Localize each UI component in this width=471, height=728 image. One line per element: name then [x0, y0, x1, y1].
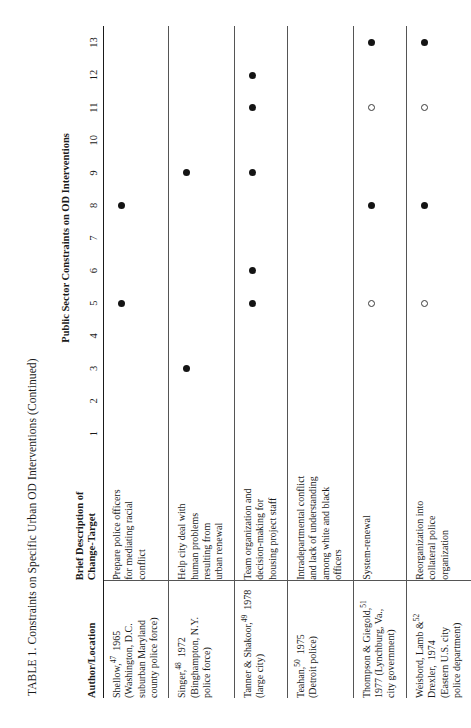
cell-constraint-4	[104, 320, 169, 353]
cell-change-target-description: Team organization anddecision-making for…	[234, 450, 287, 580]
cell-constraint-11	[104, 91, 169, 124]
cell-constraint-11	[288, 91, 354, 124]
location-line: police department)	[451, 623, 462, 698]
filled-circle-marker-icon	[421, 202, 428, 209]
cell-constraint-13	[406, 26, 471, 59]
constraints-table: Public Sector Constraints on OD Interven…	[60, 26, 471, 698]
location-line: (Binghampton, N.Y.	[189, 617, 200, 698]
description-line: collateral police	[426, 516, 437, 580]
open-circle-marker-icon	[368, 300, 375, 307]
table-row: Tanner & Shakoor,491978 (large city)Team…	[234, 26, 287, 698]
group-header-spacer-desc	[60, 450, 74, 580]
table-body: Shellow,471965(Washington, D.C.suburban …	[104, 26, 471, 698]
cell-constraint-3	[353, 352, 406, 385]
cell-constraint-12	[406, 59, 471, 92]
column-header-9: 9	[74, 157, 103, 190]
cell-constraint-4	[169, 320, 235, 353]
cell-constraint-5	[353, 287, 406, 320]
cell-constraint-7	[104, 222, 169, 255]
cell-constraint-5	[234, 287, 287, 320]
description-line: Intradepartmental conflict	[295, 476, 306, 580]
cell-constraint-1	[234, 417, 287, 450]
column-header-1: 1	[74, 417, 103, 450]
cell-constraint-13	[169, 26, 235, 59]
cell-constraint-11	[234, 91, 287, 124]
location-line: county police force)	[148, 617, 159, 698]
group-header-public-sector-constraints: Public Sector Constraints on OD Interven…	[60, 26, 74, 450]
author-name: Shellow,	[111, 663, 122, 698]
description-line: decision-making for	[254, 499, 265, 580]
cell-constraint-10	[104, 124, 169, 157]
cell-author-location: Teahan,501975(Detroit police)	[288, 580, 354, 698]
cell-constraint-1	[169, 417, 235, 450]
cell-constraint-4	[234, 320, 287, 353]
cell-constraint-4	[353, 320, 406, 353]
cell-constraint-6	[353, 254, 406, 287]
group-header-row: Public Sector Constraints on OD Interven…	[60, 26, 74, 698]
column-header-description-line1: Brief Description of	[74, 492, 85, 581]
filled-circle-marker-icon	[249, 169, 256, 176]
cell-constraint-6	[169, 254, 235, 287]
cell-constraint-5	[104, 287, 169, 320]
cell-constraint-13	[353, 26, 406, 59]
filled-circle-marker-icon	[368, 202, 375, 209]
cell-change-target-description: Help city deal withhuman problemsresulti…	[169, 450, 235, 580]
cell-constraint-1	[104, 417, 169, 450]
cell-constraint-4	[406, 320, 471, 353]
cell-constraint-5	[406, 287, 471, 320]
description-line: and lack of understanding	[307, 476, 318, 580]
table-row: Thompson & Giegold,511977 (Lynchburg, Va…	[353, 26, 406, 698]
description-line: conflict	[136, 549, 147, 580]
location-line: (Detroit police)	[307, 636, 318, 698]
cell-constraint-1	[353, 417, 406, 450]
description-line: Team organization and	[242, 488, 253, 579]
description-line: Reorganization into	[414, 501, 425, 580]
cell-constraint-5	[288, 287, 354, 320]
cell-author-location: Weisbord, Lamb &52Drexler, 1974(Eastern …	[406, 580, 471, 698]
description-line: officers	[332, 549, 343, 579]
description-line: urban renewal	[213, 523, 224, 580]
publication-year: 1965	[111, 631, 122, 651]
location-line: 1977 (Lynchburg, Va.,	[373, 609, 384, 698]
column-header-author-location-label: Author/Location	[86, 623, 97, 698]
description-line: housing project staff	[267, 498, 278, 580]
cell-constraint-4	[288, 320, 354, 353]
cell-constraint-3	[234, 352, 287, 385]
cell-constraint-10	[169, 124, 235, 157]
cell-constraint-2	[406, 385, 471, 418]
author-name: Tanner & Shakoor,	[242, 622, 253, 698]
cell-author-location: Shellow,471965(Washington, D.C.suburban …	[104, 580, 169, 698]
cell-constraint-2	[288, 385, 354, 418]
description-line: for mediating racial	[123, 501, 134, 580]
cell-constraint-2	[234, 385, 287, 418]
column-header-10: 10	[74, 124, 103, 157]
description-line: System-renewal	[361, 515, 372, 579]
cell-constraint-12	[234, 59, 287, 92]
reference-number: 51	[358, 600, 367, 608]
table-row: Teahan,501975(Detroit police)Intradepart…	[288, 26, 354, 698]
cell-constraint-12	[104, 59, 169, 92]
location-line: suburban Maryland	[136, 620, 147, 698]
cell-constraint-10	[288, 124, 354, 157]
cell-constraint-9	[353, 157, 406, 190]
cell-constraint-10	[234, 124, 287, 157]
cell-constraint-6	[234, 254, 287, 287]
cell-constraint-5	[169, 287, 235, 320]
cell-change-target-description: System-renewal	[353, 450, 406, 580]
publication-year: 1975	[295, 634, 306, 654]
cell-constraint-9	[104, 157, 169, 190]
cell-constraint-8	[104, 189, 169, 222]
cell-constraint-6	[406, 254, 471, 287]
author-name: Thompson & Giegold,	[361, 608, 372, 698]
filled-circle-marker-icon	[249, 267, 256, 274]
location-line: (Washington, D.C.	[123, 623, 134, 698]
column-header-author-location: Author/Location	[74, 580, 103, 698]
publication-year: 1972	[176, 637, 187, 657]
cell-constraint-3	[406, 352, 471, 385]
description-line: resulting from	[201, 523, 212, 580]
cell-constraint-6	[288, 254, 354, 287]
reference-number: 48	[174, 662, 183, 670]
column-header-8: 8	[74, 189, 103, 222]
